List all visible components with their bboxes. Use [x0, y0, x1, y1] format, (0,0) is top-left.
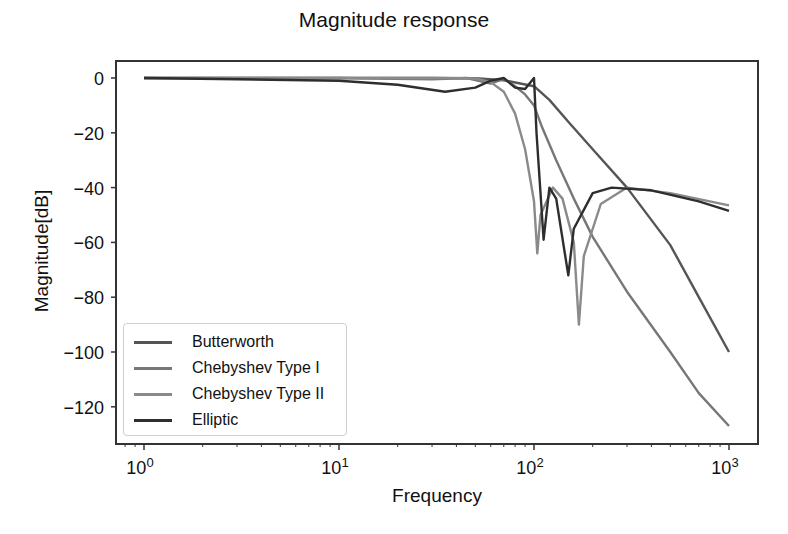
x-tick-label: 103 — [711, 455, 738, 478]
legend: Butterworth Chebyshev Type I Chebyshev T… — [123, 323, 347, 436]
legend-swatch — [134, 367, 172, 370]
y-tick-label: −80 — [73, 288, 104, 308]
y-tick-label: −60 — [73, 233, 104, 253]
legend-swatch — [134, 341, 172, 344]
legend-item-butterworth: Butterworth — [124, 329, 346, 355]
legend-label: Chebyshev Type II — [192, 385, 324, 403]
x-axis-ticks: 100101102103 — [125, 444, 739, 478]
legend-swatch — [134, 419, 172, 422]
legend-label: Butterworth — [192, 333, 274, 351]
series-line-chebyshev-type-ii — [144, 78, 729, 325]
legend-item-elliptic: Elliptic — [124, 407, 346, 433]
y-tick-label: −20 — [73, 124, 104, 144]
x-tick-label: 101 — [321, 455, 348, 478]
legend-item-chebyshev-2: Chebyshev Type II — [124, 381, 346, 407]
legend-label: Chebyshev Type I — [192, 359, 320, 377]
plot-area: 0−20−40−60−80−100−120 100101102103 — [0, 0, 788, 534]
legend-label: Elliptic — [192, 411, 238, 429]
x-axis-label: Frequency — [116, 485, 758, 507]
y-tick-label: 0 — [94, 69, 104, 89]
y-axis-ticks: 0−20−40−60−80−100−120 — [63, 69, 116, 418]
y-tick-label: −120 — [63, 398, 104, 418]
y-tick-label: −40 — [73, 179, 104, 199]
y-axis-label: Magnitude[dB] — [31, 171, 53, 331]
x-tick-label: 100 — [126, 455, 153, 478]
legend-swatch — [134, 393, 172, 396]
x-tick-label: 102 — [516, 455, 543, 478]
legend-item-chebyshev-1: Chebyshev Type I — [124, 355, 346, 381]
y-tick-label: −100 — [63, 343, 104, 363]
series-line-elliptic — [144, 78, 729, 275]
